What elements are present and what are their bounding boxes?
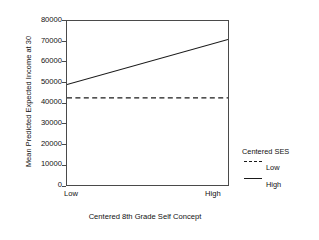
- legend-label: High: [266, 180, 281, 189]
- legend-title: Centered SES: [242, 147, 319, 157]
- y-tick-label: 70000: [24, 37, 62, 45]
- legend-label: Low: [266, 163, 280, 172]
- y-tick-label: 80000: [24, 16, 62, 24]
- legend-swatch-solid-icon: [244, 178, 262, 179]
- y-tick-label: 0: [24, 181, 62, 189]
- y-tick-label: 40000: [24, 98, 62, 106]
- y-tick-label: 30000: [24, 119, 62, 127]
- x-tick-label-high: High: [205, 189, 221, 198]
- y-tick-label: 50000: [24, 78, 62, 86]
- plot-area: [66, 20, 229, 186]
- x-axis-label: Centered 8th Grade Self Concept: [0, 212, 290, 221]
- y-tick-label: 20000: [24, 140, 62, 148]
- plot-lines-container: [67, 21, 228, 185]
- legend-item-high: High: [242, 174, 319, 191]
- legend: Centered SES Low High: [242, 147, 319, 191]
- y-tick-label: 10000: [24, 160, 62, 168]
- y-axis-tick-labels: 80000 70000 60000 50000 40000 30000 2000…: [22, 0, 62, 240]
- legend-swatch-dashed-icon: [244, 161, 262, 162]
- series-lines: [67, 21, 228, 185]
- legend-item-low: Low: [242, 157, 319, 174]
- x-tick-label-low: Low: [64, 189, 78, 198]
- series-line-high: [67, 39, 228, 84]
- y-tick-mark: [62, 186, 66, 187]
- y-tick-label: 60000: [24, 57, 62, 65]
- chart-figure: Mean Predicted Expected Income at 30 800…: [0, 0, 319, 240]
